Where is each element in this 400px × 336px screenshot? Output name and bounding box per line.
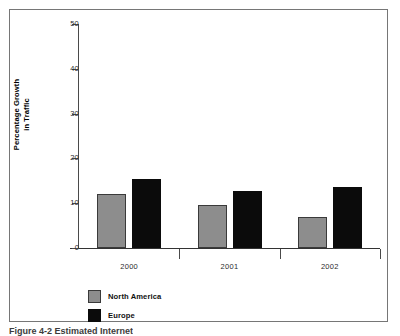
- bar-2002-north-america: [298, 217, 327, 248]
- x-axis-separator: [280, 249, 281, 259]
- bar-2001-europe: [233, 191, 262, 248]
- y-axis-tick-label: 50: [53, 19, 79, 28]
- bar-2000-europe: [132, 179, 161, 248]
- legend-item-north-america[interactable]: North America: [88, 287, 161, 306]
- legend-swatch-gray: [88, 290, 101, 303]
- y-axis-tick: 40: [10, 69, 79, 70]
- y-axis-tick: 30: [10, 114, 79, 115]
- legend-item-europe[interactable]: Europe: [88, 306, 161, 325]
- x-axis-separator: [179, 249, 180, 259]
- legend-swatch-black: [88, 309, 101, 322]
- x-axis-label-2002: 2002: [310, 262, 350, 271]
- y-axis-tick: 10: [10, 203, 79, 204]
- bar-2000-north-america: [97, 194, 126, 248]
- x-axis-line: [70, 248, 380, 249]
- legend-label: Europe: [108, 311, 135, 320]
- y-axis-tick: 20: [10, 158, 79, 159]
- bar-2002-europe: [333, 187, 362, 248]
- figure-caption: Figure 4-2 Estimated Internet: [9, 326, 133, 336]
- figure-frame: Percentage Growth in Traffic 01020304050…: [9, 9, 388, 322]
- y-axis-tick-label: 30: [53, 109, 79, 118]
- bar-2001-north-america: [198, 205, 227, 248]
- y-axis-line: [78, 24, 79, 248]
- y-axis-tick-label: 20: [53, 153, 79, 162]
- y-axis-tick: 50: [10, 24, 79, 25]
- x-axis-label-2000: 2000: [109, 262, 149, 271]
- y-axis-tick-label: 10: [53, 198, 79, 207]
- chart-legend: North AmericaEurope: [88, 287, 161, 325]
- legend-label: North America: [108, 292, 161, 301]
- chart-plot-area: Percentage Growth in Traffic 01020304050…: [10, 10, 389, 323]
- y-axis-tick-label: 40: [53, 64, 79, 73]
- y-axis-tick: 0: [10, 248, 79, 249]
- x-axis-separator: [380, 249, 381, 259]
- y-axis-tick-label: 0: [53, 243, 79, 252]
- x-axis-label-2001: 2001: [210, 262, 250, 271]
